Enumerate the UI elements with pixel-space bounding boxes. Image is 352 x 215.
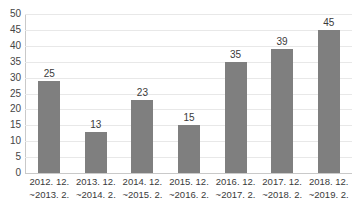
bar-value-label: 13: [90, 120, 101, 130]
x-category-label-line2: ~2017. 2.: [212, 188, 259, 201]
bar[interactable]: [225, 62, 247, 173]
x-category-label-line2: ~2019. 2.: [305, 188, 352, 201]
bar[interactable]: [318, 30, 340, 173]
bar-slot: 13: [73, 0, 120, 173]
bar-chart: 50454035302520151050 25132315353945 2012…: [0, 0, 352, 215]
y-tick-label-35: 35: [0, 57, 21, 67]
bar-value-label: 39: [277, 37, 288, 47]
x-category-label-line1: 2012. 12.: [29, 176, 69, 187]
y-tick-label-45: 45: [0, 25, 21, 35]
x-category-label-line2: ~2016. 2.: [166, 188, 213, 201]
y-tick-label-15: 15: [0, 120, 21, 130]
y-tick-label-30: 30: [0, 73, 21, 83]
x-category-label: 2015. 12.~2016. 2.: [166, 175, 213, 201]
bar-value-label: 35: [230, 50, 241, 60]
bar-slot: 25: [26, 0, 73, 173]
x-category-label: 2018. 12.~2019. 2.: [305, 175, 352, 201]
x-category-label-line1: 2015. 12.: [169, 176, 209, 187]
y-tick-label-20: 20: [0, 104, 21, 114]
x-category-label-line1: 2018. 12.: [309, 176, 349, 187]
bar-slot: 45: [305, 0, 352, 173]
y-tick-label-25: 25: [0, 89, 21, 99]
x-category-label-line1: 2017. 12.: [262, 176, 302, 187]
bar-value-label: 15: [183, 113, 194, 123]
bar[interactable]: [271, 49, 293, 173]
x-category-label: 2016. 12.~2017. 2.: [212, 175, 259, 201]
bar[interactable]: [85, 132, 107, 173]
x-category-label: 2012. 12.~2013. 2.: [26, 175, 73, 201]
y-tick-label-0: 0: [0, 168, 21, 178]
bar[interactable]: [38, 81, 60, 173]
x-category-label-line1: 2013. 12.: [76, 176, 116, 187]
y-tick-label-40: 40: [0, 41, 21, 51]
x-category-label-line1: 2016. 12.: [216, 176, 256, 187]
bar-slot: 39: [259, 0, 306, 173]
x-category-label-line2: ~2014. 2.: [73, 188, 120, 201]
x-category-label-line2: ~2015. 2.: [119, 188, 166, 201]
y-tick-label-5: 5: [0, 152, 21, 162]
bar-value-label: 23: [137, 88, 148, 98]
x-category-label-line2: ~2018. 2.: [259, 188, 306, 201]
bar-slot: 35: [212, 0, 259, 173]
bar[interactable]: [131, 100, 153, 173]
bar-value-label: 25: [44, 69, 55, 79]
bar-slot: 15: [166, 0, 213, 173]
x-category-label: 2013. 12.~2014. 2.: [73, 175, 120, 201]
y-tick-label-10: 10: [0, 136, 21, 146]
bar[interactable]: [178, 125, 200, 173]
x-axis-category-labels: 2012. 12.~2013. 2.2013. 12.~2014. 2.2014…: [26, 175, 352, 215]
x-category-label-line2: ~2013. 2.: [26, 188, 73, 201]
bar-slot: 23: [119, 0, 166, 173]
x-category-label-line1: 2014. 12.: [123, 176, 163, 187]
bar-value-label: 45: [323, 18, 334, 28]
y-tick-label-50: 50: [0, 9, 21, 19]
x-category-label: 2017. 12.~2018. 2.: [259, 175, 306, 201]
plot-area: 50454035302520151050 25132315353945 2012…: [25, 0, 352, 215]
x-category-label: 2014. 12.~2015. 2.: [119, 175, 166, 201]
